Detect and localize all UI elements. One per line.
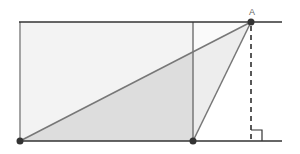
point-bottom-left bbox=[17, 138, 24, 145]
right-angle-marker bbox=[251, 130, 262, 141]
point-a-label: A bbox=[249, 7, 255, 17]
point-bottom-middle bbox=[190, 138, 197, 145]
geometry-diagram: A bbox=[0, 0, 300, 154]
point-a bbox=[248, 19, 255, 26]
